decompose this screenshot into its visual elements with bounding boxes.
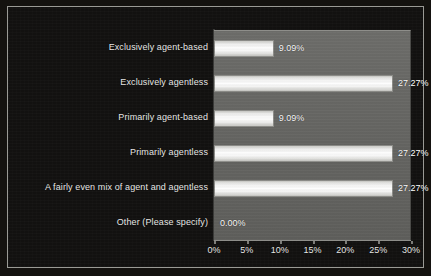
bar-row: 0.00% [214,206,410,241]
x-axis-tick [313,241,315,244]
x-axis-tick [345,241,347,244]
category-label: A fairly even mix of agent and agentless [45,182,208,193]
x-axis-tick [280,241,282,244]
bar [214,180,393,197]
category-label: Exclusively agentless [120,77,208,88]
chart-screenshot: Exclusively agent-based Exclusively agen… [0,0,431,276]
x-axis-tick-label: 5% [240,245,253,256]
category-row: Exclusively agentless [16,65,208,100]
bar-value-label: 27.27% [398,147,429,159]
bar-value-label: 9.09% [279,112,305,124]
category-axis: Exclusively agent-based Exclusively agen… [16,30,208,240]
category-row: Primarily agentless [16,135,208,170]
bar [214,40,274,57]
chart-frame: Exclusively agent-based Exclusively agen… [7,6,424,268]
plot-area: 9.09% 27.27% 9.09% 27.27% 27.27% 0.00% [214,30,411,240]
x-axis-tick [411,241,413,244]
category-label: Primarily agentless [130,147,208,158]
x-axis-tick-label: 0% [207,245,220,256]
category-row: Primarily agent-based [16,100,208,135]
x-axis-tick-label: 15% [303,245,321,256]
category-row: Other (Please specify) [16,205,208,240]
bar-row: 9.09% [214,101,410,136]
bar [214,75,393,92]
x-axis-tick-label: 25% [369,245,387,256]
x-axis: 0%5%10%15%20%25%30% [214,241,411,263]
category-row: A fairly even mix of agent and agentless [16,170,208,205]
bar [214,145,393,162]
x-axis-tick-label: 10% [271,245,289,256]
bar-value-label: 27.27% [398,182,429,194]
bar-value-label: 0.00% [220,217,246,229]
x-axis-tick-label: 20% [336,245,354,256]
bar-row: 27.27% [214,171,410,206]
bar-row: 9.09% [214,31,410,66]
x-axis-tick [247,241,249,244]
x-axis-tick [214,241,216,244]
category-label: Other (Please specify) [117,217,208,228]
category-label: Primarily agent-based [118,112,208,123]
category-row: Exclusively agent-based [16,30,208,65]
x-axis-tick-label: 30% [402,245,420,256]
bar [214,110,274,127]
bar-row: 27.27% [214,136,410,171]
bar-value-label: 9.09% [279,42,305,54]
bar-value-label: 27.27% [398,77,429,89]
bar-row: 27.27% [214,66,410,101]
x-axis-tick [378,241,380,244]
category-label: Exclusively agent-based [109,42,208,53]
